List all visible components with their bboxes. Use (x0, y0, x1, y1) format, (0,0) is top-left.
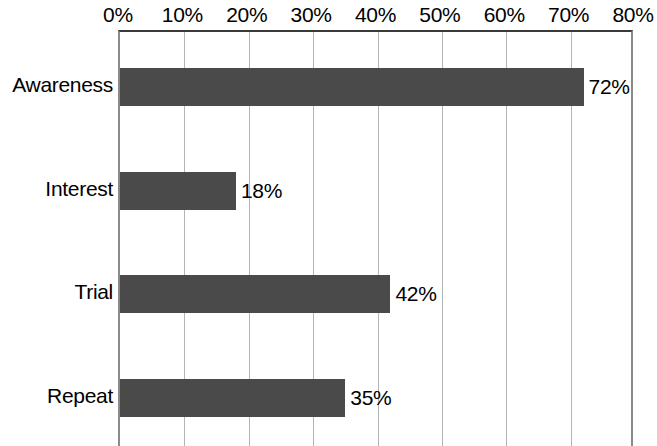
plot-area: 72%18%42%35% (118, 30, 633, 446)
category-label-trial: Trial (0, 273, 113, 311)
bar-value-label: 18% (236, 172, 282, 210)
bar-value-label: 35% (345, 379, 391, 417)
bar-chart: 0%10%20%30%40%50%60%70%80% 72%18%42%35% … (0, 0, 657, 446)
bar-awareness (120, 68, 584, 106)
bar-interest (120, 172, 236, 210)
category-label-repeat: Repeat (0, 377, 113, 415)
bar-repeat (120, 379, 345, 417)
bar-row: 18% (120, 172, 631, 210)
x-tick-80: 80% (593, 2, 657, 28)
bar-value-label: 42% (390, 275, 436, 313)
bar-row: 42% (120, 275, 631, 313)
bar-row: 35% (120, 379, 631, 417)
bar-value-label: 72% (584, 68, 630, 106)
bar-trial (120, 275, 390, 313)
category-label-interest: Interest (0, 170, 113, 208)
bar-row: 72% (120, 68, 631, 106)
category-label-awareness: Awareness (0, 66, 113, 104)
